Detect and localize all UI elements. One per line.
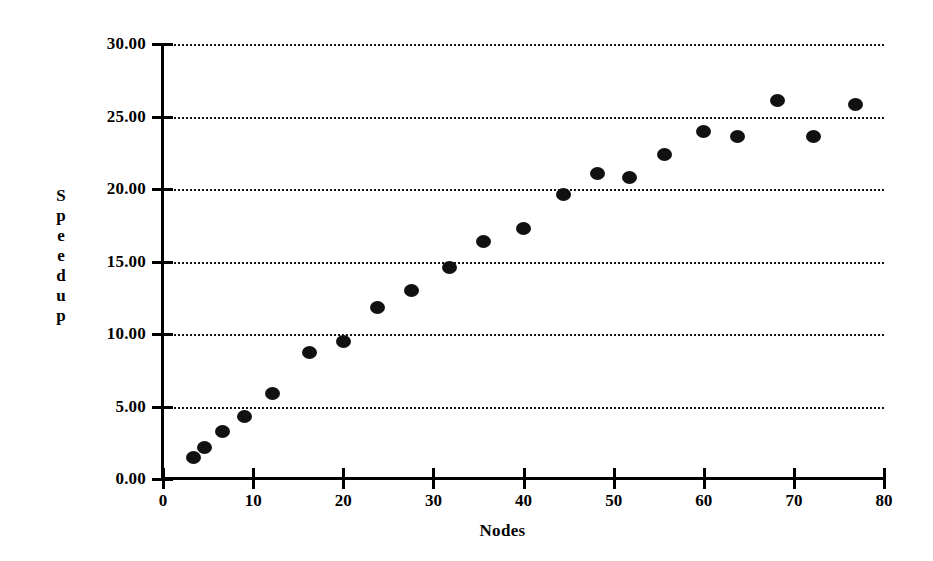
x-tick-40 (523, 468, 526, 489)
plot-area (163, 44, 884, 479)
scatter-chart-figure: 0.005.0010.0015.0020.0025.0030.00 010203… (0, 0, 933, 561)
y-tick-label-0: 0.00 (56, 470, 146, 487)
gridline-y-25 (163, 117, 884, 119)
data-point (237, 410, 252, 423)
x-axis-label-text: Nodes (480, 521, 526, 540)
x-tick-70 (793, 468, 796, 489)
data-point (730, 130, 745, 143)
y-tick-25 (152, 116, 173, 119)
data-point (770, 94, 785, 107)
gridline-y-5 (163, 407, 884, 409)
y-axis-label-char-4: d (48, 266, 74, 286)
y-tick-label-5: 5.00 (56, 398, 146, 415)
data-point (404, 284, 419, 297)
y-tick-label-30: 30.00 (56, 35, 146, 52)
y-axis-label: Speedup (48, 186, 74, 326)
x-tick-label-50: 50 (584, 492, 644, 509)
data-point (476, 235, 491, 248)
y-tick-label-10: 10.00 (56, 325, 146, 342)
x-tick-label-40: 40 (494, 492, 554, 509)
y-tick-5 (152, 406, 173, 409)
y-axis-label-char-6: p (48, 306, 74, 326)
data-point (516, 222, 531, 235)
data-point (370, 301, 385, 314)
x-tick-30 (432, 468, 435, 489)
y-tick-10 (152, 333, 173, 336)
x-tick-label-60: 60 (674, 492, 734, 509)
gridline-y-30 (163, 44, 884, 46)
data-point (657, 148, 672, 161)
data-point (336, 335, 351, 348)
x-tick-80 (883, 468, 886, 489)
y-axis-label-char-0: S (48, 186, 74, 206)
x-tick-0 (162, 468, 165, 489)
y-axis-label-char-2: e (48, 226, 74, 246)
y-tick-15 (152, 261, 173, 264)
gridline-y-15 (163, 262, 884, 264)
data-point (265, 387, 280, 400)
gridline-y-20 (163, 189, 884, 191)
x-axis-label: Nodes (0, 521, 933, 541)
data-point (442, 261, 457, 274)
x-tick-label-10: 10 (223, 492, 283, 509)
data-point (215, 425, 230, 438)
x-tick-10 (252, 468, 255, 489)
data-point (186, 451, 201, 464)
y-tick-20 (152, 188, 173, 191)
data-point (848, 98, 863, 111)
data-point (696, 125, 711, 138)
x-tick-label-80: 80 (854, 492, 914, 509)
x-tick-60 (703, 468, 706, 489)
data-point (556, 188, 571, 201)
x-tick-label-0: 0 (133, 492, 193, 509)
x-tick-20 (342, 468, 345, 489)
data-point (806, 130, 821, 143)
data-point (302, 346, 317, 359)
y-tick-label-25: 25.00 (56, 108, 146, 125)
y-axis-label-char-5: u (48, 286, 74, 306)
gridline-y-10 (163, 334, 884, 336)
y-axis-label-char-1: p (48, 206, 74, 226)
data-point (197, 441, 212, 454)
y-tick-30 (152, 43, 173, 46)
y-axis-label-char-3: e (48, 246, 74, 266)
x-tick-label-30: 30 (403, 492, 463, 509)
x-tick-50 (613, 468, 616, 489)
data-point (622, 171, 637, 184)
x-tick-label-70: 70 (764, 492, 824, 509)
data-point (590, 167, 605, 180)
x-tick-label-20: 20 (313, 492, 373, 509)
